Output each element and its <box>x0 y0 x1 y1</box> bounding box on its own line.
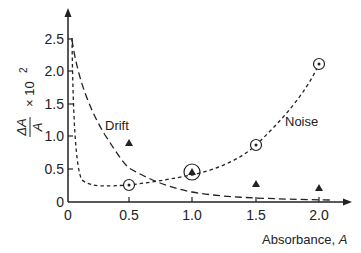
y-tick-label: 2.0 <box>45 63 65 79</box>
y-axis-label: ΔA A × 10 2 <box>14 67 45 137</box>
chart: 0 0.5 1.0 1.5 2.0 2.5 0 0.5 1.0 1.5 2.0 … <box>0 0 361 253</box>
y-tick-label: 0 <box>56 194 64 210</box>
y-tick-label: 1.0 <box>45 128 65 144</box>
y-axis-arrow-icon <box>65 8 72 17</box>
y-tick-label: 0.5 <box>45 161 65 177</box>
x-tick-label: 1.0 <box>182 207 202 223</box>
x-axis-label: Absorbance, A <box>262 232 347 247</box>
x-tick-label: 0 <box>64 207 72 223</box>
noise-annotation: Noise <box>285 114 318 129</box>
svg-text:× 10: × 10 <box>22 81 37 107</box>
x-tick-label: 0.5 <box>119 207 139 223</box>
y-tick-label: 1.5 <box>45 96 65 112</box>
x-axis-arrow-icon <box>343 199 352 206</box>
x-tick-label: 2.0 <box>309 207 329 223</box>
noise-curve <box>72 38 319 186</box>
x-tick-label: 1.5 <box>246 207 266 223</box>
svg-text:2: 2 <box>18 67 29 73</box>
y-tick-label: 2.5 <box>45 31 65 47</box>
svg-text:ΔA: ΔA <box>14 118 29 136</box>
drift-annotation: Drift <box>105 118 129 133</box>
svg-text:A: A <box>30 123 45 133</box>
